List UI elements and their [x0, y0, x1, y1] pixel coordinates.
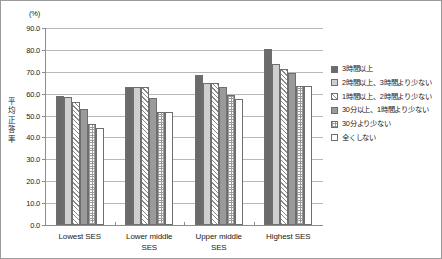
- bar: [56, 96, 64, 225]
- y-tick-label: 80.0: [26, 45, 40, 54]
- bar: [219, 87, 227, 225]
- y-tick-label: 40.0: [26, 133, 40, 142]
- x-axis-category-label-line: SES: [184, 243, 254, 254]
- legend-item-label: 30分以上、1時間より少ない: [342, 106, 428, 114]
- legend-swatch-icon: [331, 107, 338, 114]
- bar: [96, 128, 104, 225]
- category-separator: [254, 222, 255, 226]
- bar: [272, 64, 280, 225]
- legend-item-label: 3時間以上: [342, 65, 373, 73]
- bar-group: [115, 87, 185, 225]
- gridline: [45, 28, 323, 29]
- y-tick-mark: [42, 50, 45, 51]
- y-axis-unit-label: (%): [29, 9, 40, 18]
- legend-item[interactable]: 1時間以上、2時間より少ない: [331, 93, 439, 101]
- category-separator: [115, 222, 116, 226]
- legend-item-label: 30分より少ない: [342, 120, 391, 128]
- bar: [235, 99, 243, 225]
- bar: [72, 102, 80, 225]
- bar: [80, 109, 88, 225]
- x-axis-category-label: Upper middleSES: [184, 232, 254, 253]
- y-tick-label: 90.0: [26, 24, 40, 33]
- bar: [88, 124, 96, 225]
- y-axis-title-char: 答: [6, 125, 17, 134]
- y-tick-label: 0.0: [30, 221, 40, 230]
- bar: [125, 87, 133, 225]
- y-axis-title-char: 均: [6, 106, 17, 115]
- chart-figure: (%) 平 均 正 答 率 0.010.020.030.040.050.060.…: [0, 0, 442, 259]
- bar-group: [254, 49, 324, 225]
- legend-swatch-icon: [331, 134, 338, 141]
- legend-item[interactable]: 30分以上、1時間より少ない: [331, 106, 439, 114]
- legend-item-label: 2時間以上、3時間より少ない: [342, 79, 431, 87]
- y-axis-title-char: 正: [6, 116, 17, 125]
- x-axis-category-label: Highest SES: [254, 232, 324, 243]
- y-tick-mark: [42, 28, 45, 29]
- plot-area: 0.010.020.030.040.050.060.070.080.090.0: [45, 28, 323, 226]
- bar: [133, 87, 141, 225]
- bar: [288, 73, 296, 225]
- legend-swatch-icon: [331, 121, 338, 128]
- chart-legend: 3時間以上2時間以上、3時間より少ない1時間以上、2時間より少ない30分以上、1…: [331, 65, 439, 148]
- y-tick-mark: [42, 225, 45, 226]
- legend-item[interactable]: 2時間以上、3時間より少ない: [331, 79, 439, 87]
- y-axis-title: 平 均 正 答 率: [6, 97, 17, 144]
- x-axis-category-label-line: Lowest SES: [45, 232, 115, 243]
- legend-item[interactable]: 30分より少ない: [331, 120, 439, 128]
- bar: [203, 83, 211, 225]
- legend-item[interactable]: 全くしない: [331, 134, 439, 142]
- y-tick-label: 10.0: [26, 199, 40, 208]
- bar: [296, 86, 304, 225]
- y-tick-mark: [42, 94, 45, 95]
- x-axis-category-label: Lowest SES: [45, 232, 115, 243]
- y-tick-label: 30.0: [26, 155, 40, 164]
- y-axis-title-char: 率: [6, 135, 17, 144]
- bar: [280, 69, 288, 226]
- bar: [211, 83, 219, 225]
- x-axis-category-label-line: Highest SES: [254, 232, 324, 243]
- bar: [195, 75, 203, 225]
- bar: [227, 95, 235, 225]
- x-axis-category-label: Lower middleSES: [115, 232, 185, 253]
- y-tick-label: 70.0: [26, 67, 40, 76]
- y-tick-mark: [42, 72, 45, 73]
- bar: [64, 97, 72, 225]
- legend-item-label: 全くしない: [342, 134, 376, 142]
- x-axis-category-label-line: Upper middle: [184, 232, 254, 243]
- legend-item-label: 1時間以上、2時間より少ない: [342, 93, 431, 101]
- category-separator: [184, 222, 185, 226]
- y-axis-title-char: 平: [6, 97, 17, 106]
- legend-item[interactable]: 3時間以上: [331, 65, 439, 73]
- bar: [264, 49, 272, 225]
- bar: [165, 112, 173, 225]
- x-axis-category-label-line: SES: [115, 243, 185, 254]
- legend-swatch-icon: [331, 66, 338, 73]
- bar: [141, 87, 149, 225]
- bar-group: [184, 75, 254, 225]
- legend-swatch-icon: [331, 93, 338, 100]
- legend-swatch-icon: [331, 79, 338, 86]
- y-tick-label: 50.0: [26, 111, 40, 120]
- y-tick-label: 20.0: [26, 177, 40, 186]
- y-tick-label: 60.0: [26, 89, 40, 98]
- bar: [157, 112, 165, 225]
- bar: [149, 98, 157, 225]
- bar-group: [45, 96, 115, 225]
- bar: [304, 86, 312, 225]
- x-axis-category-label-line: Lower middle: [115, 232, 185, 243]
